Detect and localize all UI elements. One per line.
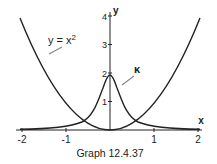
- kappa-label: κ: [134, 63, 141, 75]
- kappa-label-pointer: [122, 76, 134, 85]
- parabola-label: y = x2: [48, 33, 77, 46]
- x-tick-label: -1: [62, 134, 71, 145]
- x-tick-label: -2: [18, 134, 27, 145]
- graph-caption: Graph 12.4.37: [76, 147, 143, 159]
- x-axis-label: x: [198, 115, 204, 126]
- y-tick-label: 4: [102, 12, 107, 22]
- parabola-label-pointer: [49, 47, 62, 54]
- chart: -2 -1 1 2 1 2 3 4 x y y = x2 κ Graph 12.…: [0, 0, 217, 164]
- y-tick-label: 1: [102, 97, 107, 107]
- x-tick-label: 2: [195, 134, 201, 145]
- x-tick-label: 1: [151, 134, 157, 145]
- y-tick-label: 3: [102, 40, 107, 50]
- y-axis-label: y: [113, 5, 119, 16]
- y-tick-label: 2: [102, 69, 107, 79]
